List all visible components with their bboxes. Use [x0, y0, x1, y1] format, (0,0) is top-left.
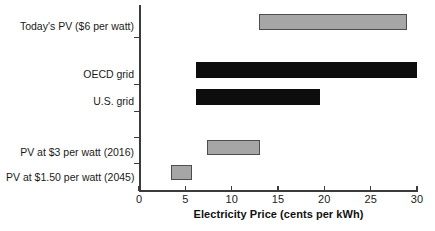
x-tick-25 — [370, 186, 371, 191]
range-bar-2 — [196, 89, 319, 105]
range-bar-1 — [196, 62, 417, 78]
x-axis-title: Electricity Price (cents per kWh) — [139, 208, 418, 220]
x-tick-label-30: 30 — [404, 193, 430, 205]
y-axis-tick-2 — [134, 111, 140, 112]
x-tick-label-25: 25 — [358, 193, 384, 205]
y-axis-tick-1 — [134, 84, 140, 85]
category-label-column: Today's PV ($6 per watt) OECD grid U.S. … — [0, 0, 139, 191]
range-bar-4 — [171, 165, 192, 180]
x-tick-label-20: 20 — [311, 193, 337, 205]
x-tick-20 — [324, 186, 325, 191]
x-tick-10 — [231, 186, 232, 191]
x-tick-label-15: 15 — [265, 193, 291, 205]
x-tick-label-0: 0 — [126, 193, 152, 205]
range-bar-chart: Today's PV ($6 per watt) OECD grid U.S. … — [0, 0, 435, 231]
category-label-pv-3-per-watt: PV at $3 per watt (2016) — [6, 146, 139, 158]
x-tick-label-5: 5 — [172, 193, 198, 205]
y-axis-tick-0 — [134, 37, 140, 38]
category-label-todays-pv: Today's PV ($6 per watt) — [6, 20, 139, 32]
x-tick-0 — [138, 186, 139, 191]
x-tick-label-10: 10 — [219, 193, 245, 205]
x-tick-5 — [185, 186, 186, 191]
category-label-oecd-grid: OECD grid — [6, 68, 139, 80]
x-tick-15 — [277, 186, 278, 191]
y-axis-tick-3 — [134, 137, 140, 138]
category-label-pv-150-per-watt: PV at $1.50 per watt (2045) — [6, 171, 139, 183]
range-bar-3 — [207, 140, 261, 155]
range-bar-0 — [259, 14, 406, 30]
y-axis-tick-4 — [134, 163, 140, 164]
x-tick-30 — [416, 186, 417, 191]
category-label-us-grid: U.S. grid — [6, 95, 139, 107]
